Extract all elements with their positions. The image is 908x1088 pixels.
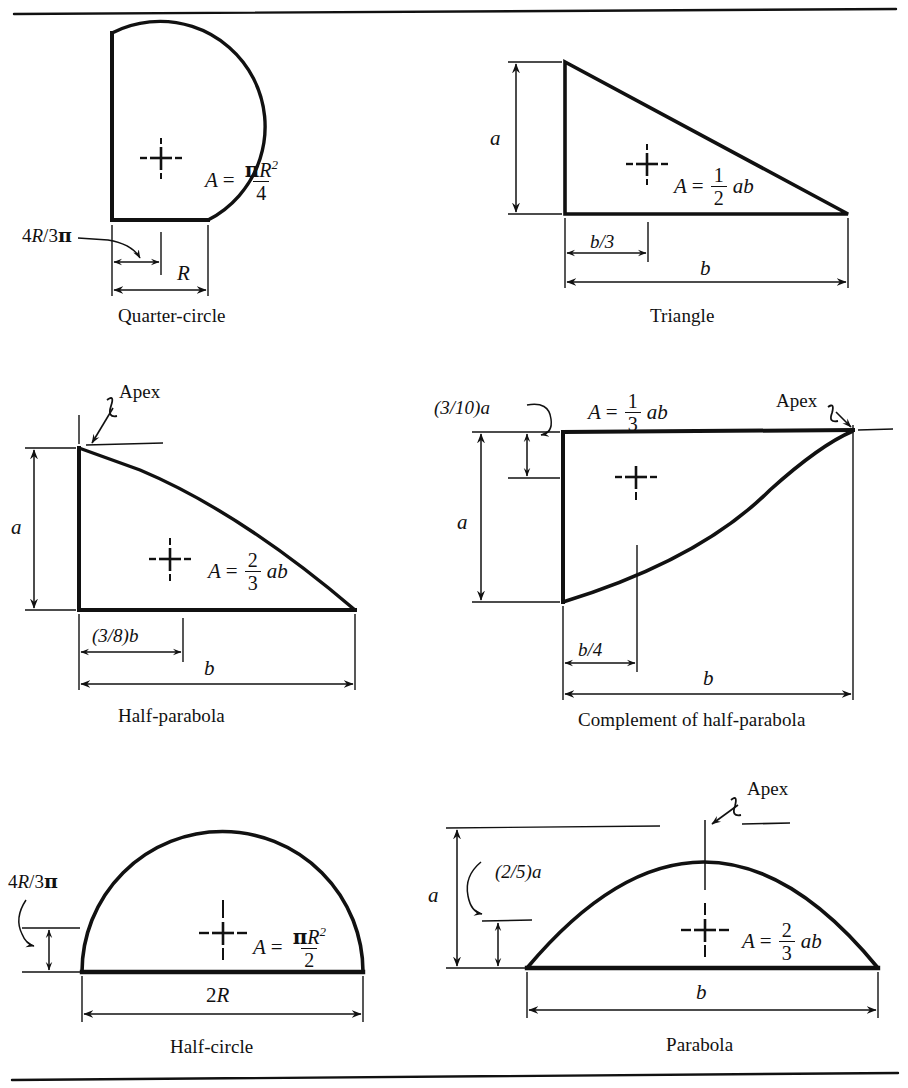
area-formula-parabola: A = 2 3 ab [742,920,822,964]
formula-equals-half-parabola: = [225,561,239,582]
parabola-extension-lines-centroid [482,920,532,921]
dim-label-R-quarter-circle: R [177,263,190,284]
leader-three-tenths-a [527,404,551,435]
dim-label-three-tenths-a: (3/10)a [434,398,490,417]
formula-denominator-half-parabola: 3 [245,571,261,593]
complement-extension-lines-top [472,432,560,478]
formula-numerator-parabola: 2 [779,920,795,941]
centroid-reference-figure: 4R/3π R A = πR2 4 Quarter-circle a b/3 b… [0,0,908,1088]
dim-label-a-half-parabola: a [11,517,22,538]
dim-label-4R-over-3pi-quarter-circle: 4R/3π [22,226,72,245]
formula-lhs-half-parabola: A [208,561,221,582]
centroid-marker-half-parabola [149,538,191,581]
formula-lhs-quarter-circle: A [205,170,218,191]
quarter-circle-straight-edges [112,33,208,220]
top-rule [14,9,896,14]
dim-label-a-complement: a [457,512,468,533]
formula-numerator-complement: 1 [625,391,641,412]
caption-quarter-circle: Quarter-circle [118,306,226,325]
formula-fraction-parabola: 2 3 [779,920,795,964]
caption-complement: Complement of half-parabola [578,710,805,729]
complement-curve [563,431,853,602]
apex-leader-half-parabola [92,408,113,443]
area-formula-half-circle: A = πR2 2 [253,925,331,970]
area-formula-quarter-circle: A = πR2 4 [205,158,283,203]
formula-fraction-half-parabola: 2 3 [245,550,261,594]
dim-label-4R-over-3pi-half-circle: 4R/3π [8,872,58,891]
half-parabola-extension-lines-vertical [25,415,79,610]
apex-label-complement: Apex [776,391,817,410]
dim-label-b-triangle: b [700,258,711,279]
dim-label-b-over-3-triangle: b/3 [590,232,614,251]
apex-tangent-parabola [742,823,790,824]
apex-tangent-half-parabola [86,443,163,445]
formula-lhs-complement: A [588,402,601,423]
area-formula-half-parabola: A = 2 3 ab [208,550,288,594]
formula-equals-complement: = [605,402,619,423]
half-circle-extension-lines-left [22,928,80,972]
parabola-extension-lines-vertical [446,826,660,968]
bottom-rule [12,1073,898,1080]
apex-tangent-complement [858,429,893,430]
dim-label-b-over-4: b/4 [578,640,602,659]
formula-fraction-half-circle: πR2 2 [290,925,329,970]
formula-trailing-complement: ab [647,402,668,423]
leader-4R-over-3pi-half-circle [19,900,34,946]
apex-squiggle-half-parabola [107,398,117,416]
formula-equals-half-circle: = [270,937,284,958]
centroid-marker-complement [615,466,657,500]
formula-denominator-half-circle: 2 [301,948,317,970]
formula-fraction-quarter-circle: πR2 4 [242,158,281,203]
formula-equals-quarter-circle: = [222,170,236,191]
formula-numerator-half-parabola: 2 [245,550,261,571]
dim-label-b-complement: b [703,668,714,689]
dim-label-a-triangle: a [490,128,501,149]
apex-label-half-parabola: Apex [119,382,160,401]
panel-half-parabola-artwork [25,398,355,690]
formula-fraction-complement: 1 3 [625,391,641,435]
caption-parabola: Parabola [666,1035,733,1054]
leader-two-fifths-a [467,862,482,914]
area-formula-triangle: A = 1 2 ab [674,165,754,209]
panel-complement-half-parabola-artwork [472,404,893,700]
formula-equals-parabola: = [759,931,773,952]
formula-lhs-triangle: A [674,176,687,197]
apex-leader-complement [836,412,851,427]
formula-equals-triangle: = [691,176,705,197]
complement-extension-lines-horizontal [563,425,853,700]
dim-label-2R: 2R [206,985,229,1006]
caption-triangle: Triangle [650,306,715,325]
quarter-circle-extension-lines [112,225,208,296]
panel-parabola-artwork [446,798,878,1018]
dim-label-b-parabola: b [696,982,707,1003]
formula-denominator-parabola: 3 [779,941,795,963]
formula-fraction-triangle: 1 2 [711,165,727,209]
formula-trailing-half-parabola: ab [267,561,288,582]
formula-denominator-triangle: 2 [711,186,727,208]
formula-numerator-triangle: 1 [711,165,727,186]
formula-lhs-parabola: A [742,931,755,952]
centroid-marker-parabola [681,903,729,957]
formula-lhs-half-circle: A [253,937,266,958]
dim-label-b-half-parabola: b [204,658,215,679]
formula-denominator-quarter-circle: 4 [253,181,269,203]
centroid-marker-half-circle [199,900,247,960]
dim-label-a-parabola: a [428,885,439,906]
formula-denominator-complement: 3 [625,412,641,434]
formula-trailing-parabola: ab [801,931,822,952]
caption-half-circle: Half-circle [170,1037,253,1056]
dim-label-two-fifths-a: (2/5)a [495,862,541,881]
dim-label-three-eighths-b: (3/8)b [92,626,138,645]
apex-label-parabola: Apex [747,779,788,798]
centroid-marker-triangle [626,144,668,185]
leader-4R-over-3pi [78,238,140,258]
formula-trailing-triangle: ab [733,176,754,197]
centroid-marker-quarter-circle [140,138,182,179]
area-formula-complement: A = 1 3 ab [588,391,668,435]
parabola-curve [527,862,878,968]
caption-half-parabola: Half-parabola [118,706,225,725]
